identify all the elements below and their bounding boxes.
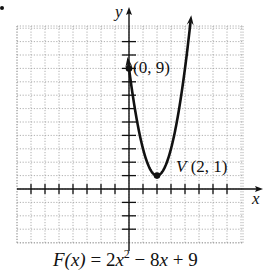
- y-axis-label: y: [115, 3, 123, 20]
- parabola-path: [128, 21, 190, 175]
- function-equation: F(x) = 2x2 − 8x + 9: [53, 250, 198, 269]
- equation-coef-a: 2x: [106, 249, 124, 270]
- vertex-letter: V: [176, 157, 186, 176]
- axes: [17, 7, 263, 251]
- point-label-vertex: V (2, 1): [176, 158, 227, 175]
- vertex-point: [154, 172, 161, 179]
- equation-exponent: 2: [124, 247, 130, 261]
- equation-lhs: F(x): [53, 249, 86, 270]
- x-axis-label: x: [252, 190, 260, 207]
- point-label-y-intercept: (0, 9): [133, 59, 170, 76]
- equation-term-a: 2x2: [106, 249, 130, 270]
- vertex-coords: (2, 1): [191, 157, 228, 176]
- parabola-plot: [0, 0, 267, 271]
- y-intercept-point: [126, 65, 133, 72]
- equation-equals: =: [90, 249, 101, 270]
- equation-rest: − 8x + 9: [135, 249, 198, 270]
- grid: [17, 26, 243, 243]
